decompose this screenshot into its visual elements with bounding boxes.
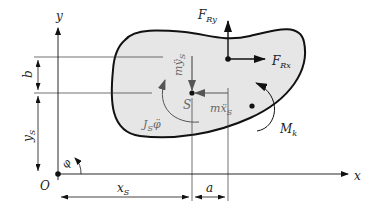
y-axis-label: y — [55, 9, 63, 23]
dim-a-label: a — [206, 181, 213, 195]
angle-phi-label: φ — [59, 156, 74, 170]
origin-point — [55, 171, 61, 177]
x-axis-label: x — [354, 169, 361, 183]
moment-point — [249, 103, 254, 108]
rigid-body — [112, 29, 305, 137]
center-label: S — [183, 98, 191, 112]
dim-xs-label: xS — [117, 181, 130, 197]
moment-mk-label: Mk — [279, 122, 297, 138]
free-body-diagram: y x O φ b yS xS a FRy FRx Mk S mÿS mẍS J… — [0, 0, 378, 212]
center-of-mass — [189, 90, 194, 95]
angle-phi-arc — [75, 158, 81, 174]
dim-ys-label: yS — [21, 129, 37, 143]
dim-b-label: b — [21, 70, 35, 78]
origin-label: O — [40, 179, 50, 193]
force-fry-label: FRy — [197, 8, 217, 24]
